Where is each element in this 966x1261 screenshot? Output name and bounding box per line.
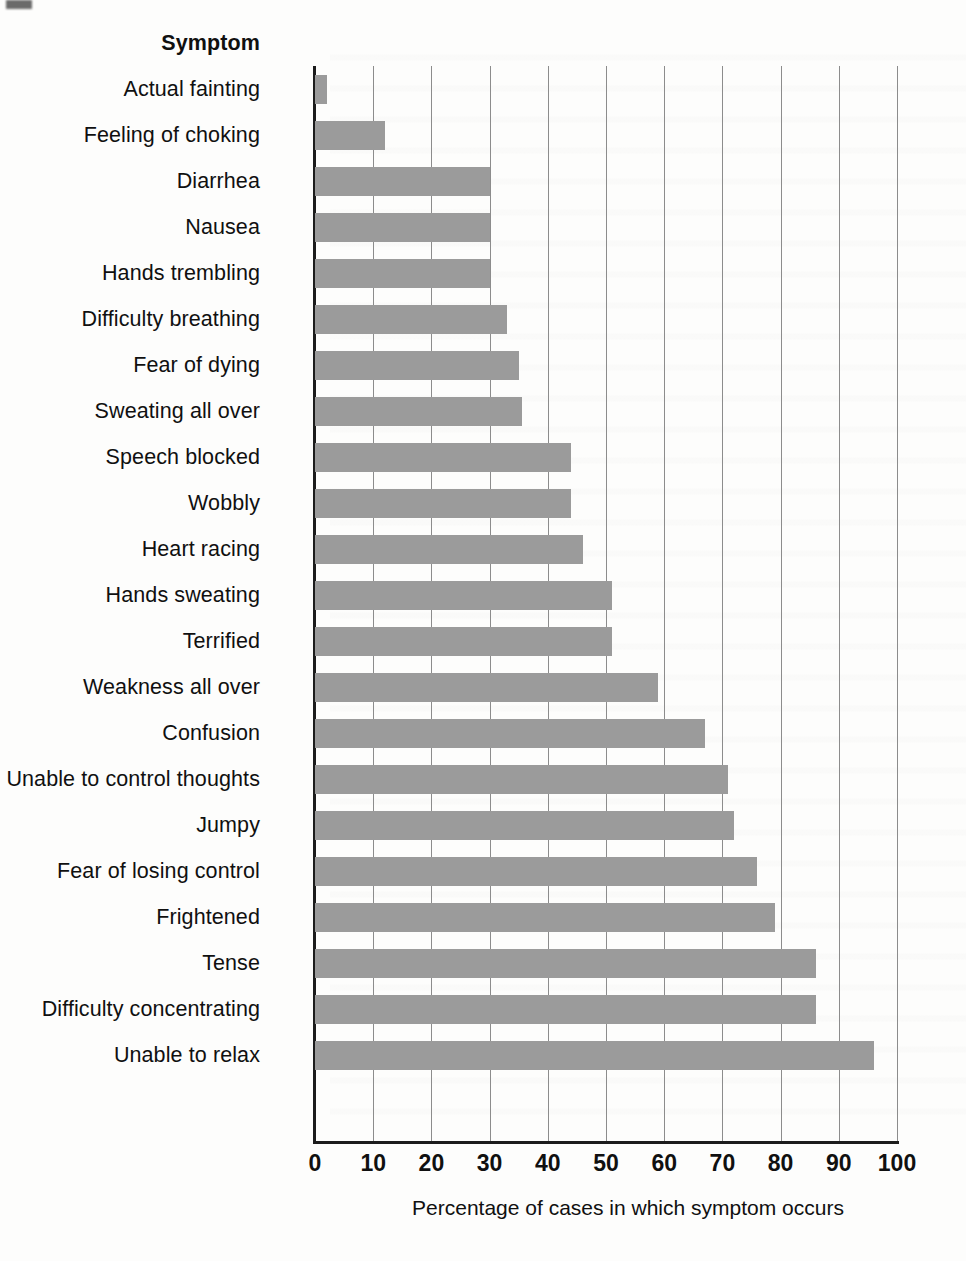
- bar-row: Difficulty concentrating: [0, 986, 966, 1032]
- bar-row: Difficulty breathing: [0, 296, 966, 342]
- bar: [315, 397, 522, 426]
- bar-row: Jumpy: [0, 802, 966, 848]
- horizontal-bar-chart: Symptom Actual faintingFeeling of chokin…: [0, 0, 966, 1261]
- bar-row: Sweating all over: [0, 388, 966, 434]
- bar: [315, 351, 519, 380]
- bar-category-label: Difficulty concentrating: [42, 986, 260, 1032]
- bar: [315, 535, 583, 564]
- bar: [315, 719, 705, 748]
- bar-category-label: Feeling of choking: [84, 112, 260, 158]
- bar-category-label: Jumpy: [196, 802, 260, 848]
- bar: [315, 167, 490, 196]
- bar-row: Feeling of choking: [0, 112, 966, 158]
- bar-category-label: Heart racing: [142, 526, 260, 572]
- bar-category-label: Confusion: [162, 710, 260, 756]
- figure-page: Symptom Actual faintingFeeling of chokin…: [0, 0, 966, 1261]
- x-axis-line: [313, 1141, 899, 1144]
- bar: [315, 1041, 874, 1070]
- bar-row: Terrified: [0, 618, 966, 664]
- bar-category-label: Nausea: [185, 204, 260, 250]
- bar-category-label: Fear of dying: [133, 342, 260, 388]
- bar-row: Speech blocked: [0, 434, 966, 480]
- bar: [315, 673, 658, 702]
- bar: [315, 75, 327, 104]
- x-axis-title-wrapper: Percentage of cases in which symptom occ…: [0, 1196, 966, 1220]
- bar: [315, 765, 728, 794]
- bar: [315, 811, 734, 840]
- bar-category-label: Actual fainting: [123, 66, 260, 112]
- bar-category-label: Terrified: [183, 618, 260, 664]
- bar-row: Unable to relax: [0, 1032, 966, 1078]
- bar-category-label: Diarrhea: [177, 158, 260, 204]
- bar-row: Tense: [0, 940, 966, 986]
- bar-row: Fear of losing control: [0, 848, 966, 894]
- bar-row: Heart racing: [0, 526, 966, 572]
- bar-category-label: Speech blocked: [106, 434, 260, 480]
- bar: [315, 995, 816, 1024]
- bar: [315, 903, 775, 932]
- bar: [315, 305, 507, 334]
- x-tick-label-100: 100: [862, 1150, 932, 1177]
- bar-category-label: Fear of losing control: [57, 848, 260, 894]
- bar-row: Fear of dying: [0, 342, 966, 388]
- bar: [315, 213, 490, 242]
- bar-category-label: Hands sweating: [106, 572, 260, 618]
- bar-category-label: Unable to relax: [114, 1032, 260, 1078]
- bar: [315, 627, 612, 656]
- bar-row: Wobbly: [0, 480, 966, 526]
- bar-category-label: Weakness all over: [83, 664, 260, 710]
- bar: [315, 489, 571, 518]
- bar: [315, 581, 612, 610]
- bar: [315, 121, 385, 150]
- bar-category-label: Sweating all over: [95, 388, 260, 434]
- bar-row: Nausea: [0, 204, 966, 250]
- bar: [315, 259, 490, 288]
- category-header-label: Symptom: [161, 20, 260, 66]
- bar-category-label: Wobbly: [188, 480, 260, 526]
- bar-category-label: Hands trembling: [102, 250, 260, 296]
- bar-category-label: Unable to control thoughts: [6, 756, 260, 802]
- bar-category-label: Tense: [202, 940, 260, 986]
- bar-row: Weakness all over: [0, 664, 966, 710]
- bar-row: Actual fainting: [0, 66, 966, 112]
- bar-row: Confusion: [0, 710, 966, 756]
- category-header-row: Symptom: [0, 20, 966, 66]
- x-axis-title: Percentage of cases in which symptom occ…: [412, 1196, 844, 1220]
- bar-row: Hands sweating: [0, 572, 966, 618]
- bar-row: Diarrhea: [0, 158, 966, 204]
- bar: [315, 857, 757, 886]
- bar-category-label: Difficulty breathing: [82, 296, 260, 342]
- bar-category-label: Frightened: [156, 894, 260, 940]
- bar-row: Unable to control thoughts: [0, 756, 966, 802]
- bar: [315, 443, 571, 472]
- bar-row: Hands trembling: [0, 250, 966, 296]
- bar-row: Frightened: [0, 894, 966, 940]
- bar: [315, 949, 816, 978]
